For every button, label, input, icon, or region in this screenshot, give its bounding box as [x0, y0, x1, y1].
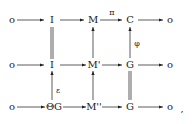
node-I: I: [50, 15, 54, 25]
node-M: M: [88, 15, 98, 25]
zero-node: o: [167, 102, 173, 112]
node-theta-G: ΘG: [46, 102, 62, 112]
node-M-double-prime: M'': [86, 102, 102, 112]
node-C: C: [126, 15, 134, 25]
node-G: G: [126, 102, 134, 112]
phi-label: φ: [134, 40, 140, 48]
pi-label: π: [109, 9, 114, 17]
zero-node: o: [9, 60, 15, 70]
node-I: I: [50, 60, 54, 70]
epsilon-label: ε: [56, 87, 60, 95]
node-G: G: [126, 60, 134, 70]
zero-node: o: [167, 60, 173, 70]
node-M-prime: M': [88, 60, 101, 70]
zero-node: o: [167, 15, 173, 25]
zero-node: o: [9, 102, 15, 112]
zero-node: o: [9, 15, 15, 25]
trailing-comma: ,: [180, 104, 183, 114]
